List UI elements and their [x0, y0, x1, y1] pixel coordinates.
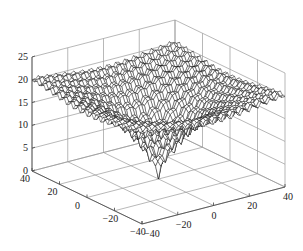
surface-mesh: [32, 42, 285, 179]
surface-plot: 40200−20−40 −40−2002040 0510152025: [0, 0, 303, 251]
z-tick-label: 15: [18, 97, 28, 108]
y-tick-label: 40: [283, 191, 293, 202]
x-tick-label: −20: [103, 213, 119, 224]
x-axis-tick-labels: 40200−20−40: [20, 173, 146, 237]
x-tick-label: 0: [75, 200, 80, 211]
y-tick-label: 0: [212, 210, 217, 221]
z-axis-tick-labels: 0510152025: [18, 51, 28, 176]
x-tick-label: 20: [48, 186, 58, 197]
y-tick-label: −20: [176, 219, 192, 230]
y-tick-label: 20: [247, 200, 257, 211]
z-tick-label: 25: [18, 51, 28, 62]
y-axis-tick-labels: −40−2002040: [144, 191, 293, 239]
z-tick-label: 5: [23, 142, 28, 153]
y-tick-label: −40: [144, 228, 160, 239]
z-tick-label: 0: [23, 165, 28, 176]
z-tick-label: 10: [18, 119, 28, 130]
z-tick-label: 20: [18, 74, 28, 85]
